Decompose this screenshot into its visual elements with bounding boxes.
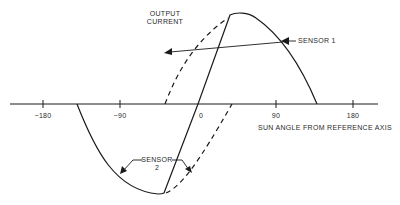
y-axis-label-line1: OUTPUT [143,10,187,18]
x-tick-label-0: 0 [199,112,203,120]
x-axis-label: SUN ANGLE FROM REFERENCE AXIS [258,124,392,132]
y-axis-label: OUTPUT CURRENT [143,10,187,26]
x-tick-label-neg180: −180 [30,112,56,120]
x-tick-label-90: 90 [266,112,286,120]
sensor1-leader-long [170,42,283,52]
y-axis-label-line2: CURRENT [143,18,187,26]
x-tick-label-neg90: −90 [108,112,132,120]
sensor2-label-line2: 2 [140,164,174,172]
x-tick-label-180: 180 [341,112,365,120]
sensor1-arrowhead-left [164,48,172,55]
sensor2-label-line1: SENSOR [140,156,174,164]
sensor2-label: SENSOR 2 [140,156,174,172]
dashed-response-curve-upper [165,18,228,104]
sensor-output-diagram [0,0,400,205]
sensor1-label: SENSOR 1 [298,37,336,45]
